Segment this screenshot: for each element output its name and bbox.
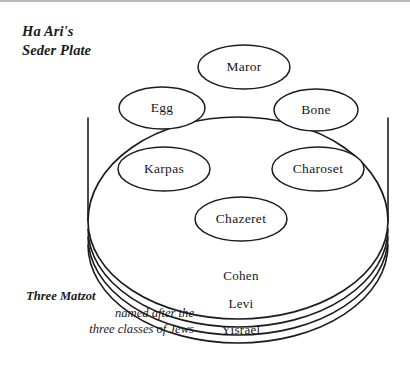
figure-caption-heading: Three Matzot — [26, 288, 198, 305]
figure-caption-line-1: named after the — [26, 305, 198, 322]
figure-caption: Three Matzot named after the three class… — [26, 288, 198, 338]
figure-title: Ha Ari's Seder Plate — [22, 22, 172, 59]
figure-title-line-1: Ha Ari's — [22, 22, 172, 41]
plate-item-label-bone: Bone — [301, 102, 331, 117]
figure-caption-line-2: three classes of Jews — [26, 321, 198, 338]
figure-canvas: Maror Egg Bone Karpas Charoset Chazeret … — [0, 0, 410, 368]
plate-item-label-karpas: Karpas — [144, 161, 184, 176]
plate-item-label-chazeret: Chazeret — [216, 211, 266, 226]
matzah-label-levi: Levi — [228, 296, 253, 311]
figure-title-line-2: Seder Plate — [22, 41, 172, 60]
plate-item-label-egg: Egg — [151, 100, 174, 115]
matzah-label-yisrael: Yisrael — [222, 322, 261, 337]
matzah-label-cohen: Cohen — [223, 268, 259, 283]
plate-item-label-charoset: Charoset — [293, 161, 343, 176]
plate-item-label-maror: Maror — [226, 59, 261, 74]
